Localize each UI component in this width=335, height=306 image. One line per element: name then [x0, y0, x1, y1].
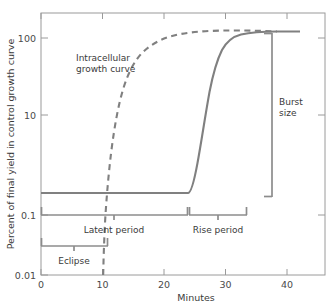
- chart-background: [0, 0, 335, 306]
- x-tick-label-0: 0: [38, 279, 44, 290]
- burst-size-label-line2: size: [279, 108, 297, 118]
- y-tick-label-10: 10: [24, 110, 36, 121]
- burst-size-label-line1: Burst: [279, 97, 303, 107]
- intracellular-label-line1: Intracellular: [76, 53, 130, 63]
- x-tick-label-20: 20: [158, 279, 170, 290]
- chart-svg: 100 10 0.1 0.01 0 10 20 30 40 Minutes Pe…: [0, 0, 335, 306]
- y-axis-title: Percent of final yield in control growth…: [5, 39, 16, 250]
- y-tick-label-0.1: 0.1: [21, 210, 36, 221]
- eclipse-label: Eclipse: [58, 256, 90, 266]
- intracellular-label-line2: growth curve: [76, 64, 136, 74]
- x-tick-label-30: 30: [219, 279, 231, 290]
- y-tick-label-100: 100: [18, 33, 36, 44]
- latent-period-label: Latent period: [84, 225, 144, 235]
- y-tick-label-0.01: 0.01: [15, 270, 36, 281]
- x-tick-label-10: 10: [96, 279, 108, 290]
- chart-figure: 100 10 0.1 0.01 0 10 20 30 40 Minutes Pe…: [0, 0, 335, 306]
- rise-period-label: Rise period: [193, 225, 244, 235]
- x-tick-label-40: 40: [281, 279, 293, 290]
- x-axis-title: Minutes: [177, 292, 214, 303]
